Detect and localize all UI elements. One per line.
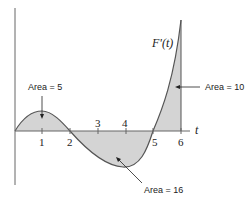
tick-4: 4 bbox=[122, 117, 128, 129]
annotation-area-5: Area = 5 bbox=[28, 82, 62, 92]
chart-canvas: 1 2 3 4 5 6 t F'(t) Area = 5 Area = 10 A… bbox=[0, 0, 246, 202]
function-label: F'(t) bbox=[151, 36, 173, 50]
x-axis-label: t bbox=[195, 123, 199, 137]
tick-2: 2 bbox=[67, 136, 73, 148]
region-2-5 bbox=[70, 131, 153, 167]
tick-5: 5 bbox=[152, 136, 158, 148]
tick-3: 3 bbox=[95, 117, 101, 129]
annotation-area-16: Area = 16 bbox=[144, 185, 183, 195]
chart: 1 2 3 4 5 6 t F'(t) Area = 5 Area = 10 A… bbox=[0, 0, 246, 202]
annotation-area-10: Area = 10 bbox=[205, 82, 244, 92]
tick-1: 1 bbox=[39, 136, 45, 148]
tick-6: 6 bbox=[178, 136, 184, 148]
